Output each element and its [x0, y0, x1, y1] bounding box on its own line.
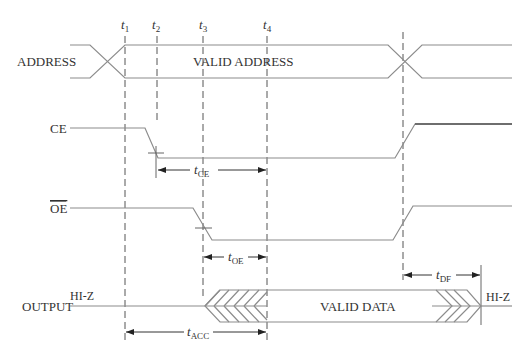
address-label: ADDRESS	[17, 54, 76, 69]
oe-waveform	[70, 206, 512, 240]
t-df-arrowhead-left	[404, 272, 412, 278]
t-acc-label: tACC	[187, 324, 209, 341]
ce-label: CE	[50, 121, 67, 136]
t-ce-label: tCE	[194, 162, 210, 179]
output-hi-z-final-label: HI-Z	[486, 290, 510, 304]
valid-data-label: VALID DATA	[320, 299, 396, 314]
t-oe-arrowhead-left	[204, 254, 212, 260]
t-oe-label: tOE	[228, 249, 244, 266]
t-df-label: tDF	[436, 267, 451, 284]
t-acc-arrowhead-left	[126, 329, 134, 335]
ce-signal: CE tCE	[50, 121, 512, 179]
oe-signal: OE tOE	[50, 201, 512, 266]
t-df-arrowhead-right	[472, 272, 480, 278]
t-oe-arrowhead-right	[258, 254, 266, 260]
memory-read-timing-diagram: t1 t2 t3 t4 ADDRESS VALID ADDRESS CE tCE…	[0, 0, 529, 355]
t2-label: t2	[152, 17, 160, 34]
output-label: OUTPUT	[22, 299, 73, 314]
ce-waveform	[70, 124, 512, 158]
t4-label: t4	[263, 17, 272, 34]
t-acc-arrowhead-right	[258, 329, 266, 335]
t3-label: t3	[199, 17, 208, 34]
oe-bar-label: OE	[50, 201, 67, 216]
t-ce-arrowhead-right	[258, 167, 266, 173]
t-acc-interval: tACC	[126, 324, 266, 341]
t-ce-arrowhead-left	[158, 167, 166, 173]
output-transition-hatching	[205, 290, 267, 322]
t1-label: t1	[121, 17, 129, 34]
output-hi-z-initial-label: HI-Z	[70, 289, 94, 303]
valid-address-label: VALID ADDRESS	[193, 54, 294, 69]
output-fadeout-hatching	[432, 290, 481, 322]
address-signal: ADDRESS VALID ADDRESS	[17, 45, 512, 78]
time-marker-labels: t1 t2 t3 t4	[121, 17, 272, 34]
